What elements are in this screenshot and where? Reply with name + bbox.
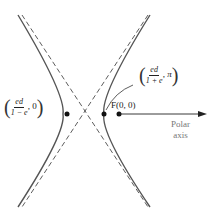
hyperbola-diagram: (ed1 − e, 0) (ed1 + e, π) F(0, 0) Polar … — [0, 0, 223, 223]
focus-label: F(0, 0) — [111, 101, 136, 110]
hyperbola-right-branch — [104, 15, 150, 207]
left-vertex-point — [65, 112, 70, 117]
right-vertex-point — [102, 112, 107, 117]
polar-axis-label: Polar axis — [171, 119, 190, 141]
left-vertex-label: (ed1 − e, 0) — [4, 97, 43, 117]
polar-axis-arrowhead — [198, 111, 207, 117]
right-vertex-label: (ed1 + e, π) — [139, 65, 178, 85]
